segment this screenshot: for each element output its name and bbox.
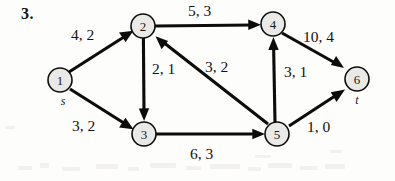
edge-label-2-3: 2, 1 — [152, 60, 175, 77]
node-5[interactable]: 5 — [265, 122, 289, 146]
edge-label-5-4: 3, 1 — [284, 63, 307, 80]
node-6-label: 6 — [354, 72, 361, 87]
edge-5-2 — [156, 36, 269, 124]
edge-label-1-2: 4, 2 — [71, 26, 94, 43]
node-1[interactable]: 1 s — [48, 68, 72, 108]
edge-2-3 — [139, 38, 149, 121]
edge-label-3-5: 6, 3 — [190, 145, 214, 162]
flow-network-graph: 4, 2 3, 2 5, 3 2, 1 3, 2 6, 3 3, 1 10, 4… — [0, 0, 395, 181]
node-2[interactable]: 2 — [131, 14, 155, 38]
edge-3-5 — [156, 129, 265, 139]
node-1-label: 1 — [57, 73, 64, 88]
node-2-label: 2 — [140, 19, 147, 34]
source-label-s: s — [61, 94, 66, 108]
node-6[interactable]: 6 t — [345, 67, 369, 107]
sink-label-t: t — [355, 93, 359, 107]
edge-label-1-3: 3, 2 — [72, 117, 95, 134]
node-3[interactable]: 3 — [132, 122, 156, 146]
node-4[interactable]: 4 — [261, 12, 285, 36]
node-4-label: 4 — [270, 17, 277, 32]
edge-2-4 — [155, 20, 261, 30]
edge-5-4 — [268, 37, 278, 122]
edge-label-5-6: 1, 0 — [307, 118, 331, 135]
edge-label-4-6: 10, 4 — [303, 28, 334, 45]
figure-page: 3. — [0, 0, 395, 181]
node-3-label: 3 — [141, 127, 148, 142]
node-5-label: 5 — [274, 127, 281, 142]
edge-label-2-4: 5, 3 — [188, 2, 212, 19]
edge-label-5-2: 3, 2 — [205, 58, 228, 75]
